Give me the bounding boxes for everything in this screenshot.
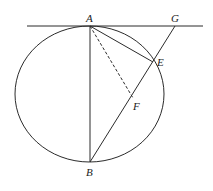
segment-AE bbox=[90, 26, 153, 62]
segment-BG bbox=[90, 26, 175, 162]
label-A: A bbox=[85, 12, 93, 24]
label-E: E bbox=[156, 56, 164, 68]
label-F: F bbox=[132, 100, 140, 112]
geometry-diagram: A G E F B bbox=[0, 0, 213, 191]
label-B: B bbox=[86, 166, 93, 178]
label-G: G bbox=[171, 12, 179, 24]
segment-AF-dashed bbox=[90, 26, 133, 98]
